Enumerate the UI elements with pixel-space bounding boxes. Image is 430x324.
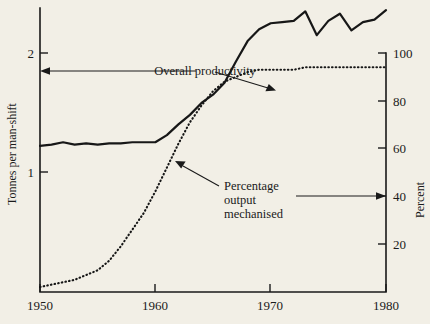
overall-productivity-arrow-left-icon (40, 67, 50, 75)
overall-productivity-annotation: Overall productivity (40, 64, 276, 91)
right-tick-label-100: 100 (393, 46, 413, 61)
right-tick-label-80: 80 (393, 94, 406, 109)
x-tick-label-1970: 1970 (257, 298, 283, 313)
left-axis-tick-labels: 2 1 (28, 46, 35, 180)
percentage-output-mechanised-label-line2: output (224, 193, 256, 207)
axis-frame-path (40, 8, 386, 292)
right-tick-label-60: 60 (393, 141, 406, 156)
x-tick-label-1950: 1950 (27, 298, 53, 313)
chart-figure: 2 1 Tonnes per man-shift 100 80 60 40 20… (0, 0, 430, 324)
left-axis-title: Tonnes per man-shift (5, 103, 19, 205)
left-tick-label-1: 1 (28, 165, 35, 180)
x-axis-tick-labels: 1950 1960 1970 1980 (27, 298, 399, 313)
percentage-output-mechanised-annotation: Percentage output mechanised (175, 161, 284, 221)
percentage-output-mechanised-arrow-icon (175, 161, 186, 169)
overall-productivity-label: Overall productivity (154, 64, 256, 78)
x-tick-label-1960: 1960 (142, 298, 168, 313)
chart-plot-area: 2 1 Tonnes per man-shift 100 80 60 40 20… (0, 0, 430, 324)
percentage-output-mechanised-label-line3: mechanised (224, 207, 284, 221)
x-tick-label-1980: 1980 (373, 298, 399, 313)
right-axis-ticks (378, 53, 386, 244)
axes-frame (40, 8, 386, 292)
right-axis-title: Percent (413, 181, 427, 218)
right-tick-label-40: 40 (393, 189, 406, 204)
percent-axis-pointer-arrow-icon (376, 192, 386, 200)
x-axis-ticks (40, 284, 386, 292)
right-tick-label-20: 20 (393, 237, 406, 252)
percent-axis-pointer-annotation (296, 192, 386, 200)
percentage-output-mechanised-label-line1: Percentage (224, 179, 279, 193)
percentage-output-mechanised-leader (183, 166, 219, 186)
right-axis-tick-labels: 100 80 60 40 20 (393, 46, 413, 252)
left-tick-label-2: 2 (28, 46, 35, 61)
series-percentage-output-mechanised (40, 67, 386, 287)
